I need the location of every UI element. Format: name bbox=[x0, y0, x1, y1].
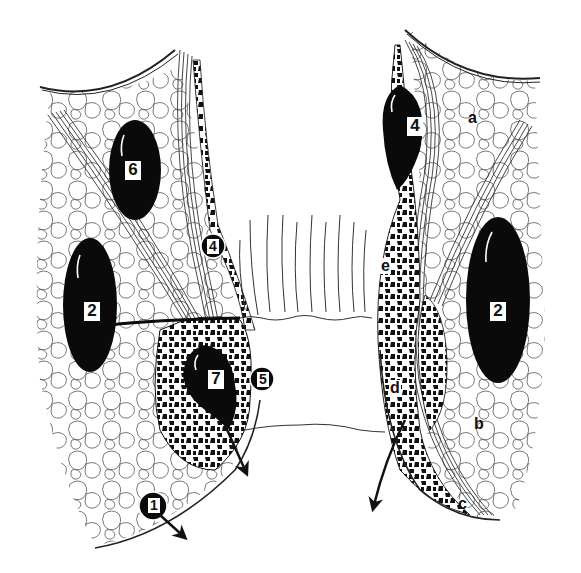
label-region-c: c bbox=[458, 496, 467, 512]
anorectal-diagram bbox=[0, 0, 581, 573]
label-region-a: a bbox=[468, 110, 477, 126]
label-abscess-right-4: 4 bbox=[407, 117, 423, 136]
label-abscess-left-4: 4 bbox=[207, 239, 219, 254]
label-abscess-left-1: 1 bbox=[148, 498, 160, 513]
label-abscess-left-5: 5 bbox=[257, 372, 269, 387]
label-region-d: d bbox=[389, 380, 401, 396]
label-abscess-left-7: 7 bbox=[208, 370, 224, 389]
anal-columns bbox=[240, 215, 385, 432]
label-abscess-left-6: 6 bbox=[125, 161, 141, 180]
label-region-b: b bbox=[474, 416, 484, 432]
label-abscess-left-2: 2 bbox=[84, 302, 100, 321]
abscess-right-2 bbox=[466, 217, 530, 383]
label-region-e: e bbox=[380, 258, 391, 274]
abscess-right-4 bbox=[383, 85, 423, 190]
label-abscess-right-2: 2 bbox=[490, 302, 506, 321]
